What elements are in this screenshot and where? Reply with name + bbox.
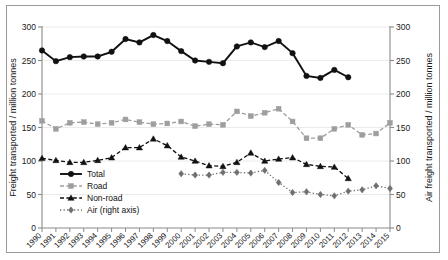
x-axis-tick-label: 2015: [372, 231, 391, 250]
data-point: [234, 159, 240, 164]
series-road: [40, 106, 393, 140]
series-line: [42, 109, 390, 138]
left-axis-tick-label: 200: [22, 89, 36, 99]
data-point: [318, 136, 323, 141]
data-point: [220, 169, 225, 175]
data-point: [109, 120, 114, 125]
left-axis-tick-label: 100: [22, 156, 36, 166]
data-point: [151, 122, 156, 127]
right-axis-tick-label: 300: [396, 22, 410, 32]
data-point: [318, 191, 323, 197]
data-point: [304, 189, 309, 195]
legend-label: Air (right axis): [87, 205, 140, 215]
data-point: [67, 120, 72, 125]
data-point: [39, 48, 44, 53]
data-point: [53, 157, 59, 162]
data-point: [67, 54, 72, 59]
legend-label: Non-road: [87, 193, 123, 203]
legend-marker: [68, 171, 73, 176]
right-axis-title: Air freight transported / million tonnes: [424, 52, 434, 202]
data-point: [374, 183, 379, 189]
data-point: [123, 36, 128, 41]
data-point: [262, 44, 267, 49]
data-point: [318, 75, 323, 80]
data-point: [262, 110, 267, 115]
data-point: [95, 54, 100, 59]
data-point: [137, 40, 142, 45]
data-point: [179, 48, 184, 53]
data-point: [290, 119, 295, 124]
data-point: [360, 187, 365, 193]
data-point: [39, 155, 45, 160]
series-line: [181, 170, 390, 195]
legend-label: Total: [87, 169, 105, 179]
data-point: [248, 170, 253, 176]
data-point: [276, 38, 281, 43]
data-point: [137, 120, 142, 125]
data-point: [360, 132, 365, 137]
left-axis-tick-label: 300: [22, 22, 36, 32]
data-point: [179, 171, 184, 177]
data-point: [276, 106, 281, 111]
data-point: [290, 50, 295, 55]
data-point: [346, 75, 351, 80]
right-axis-tick-label: 250: [396, 56, 410, 66]
data-point: [332, 193, 337, 199]
x-axis: 1990199119921993199419951996199719981999…: [24, 228, 391, 250]
data-point: [179, 119, 184, 124]
data-point: [151, 32, 156, 37]
left-axis-tick-label: 250: [22, 56, 36, 66]
data-point: [332, 126, 337, 131]
left-axis-tick-label: 50: [27, 190, 37, 200]
data-point: [81, 120, 86, 125]
chart-svg: 050100150200250300Freight transported / …: [0, 0, 448, 260]
legend-label: Road: [87, 181, 108, 191]
data-point: [332, 67, 337, 72]
data-point: [388, 185, 393, 191]
legend-item-total[interactable]: Total: [60, 169, 105, 179]
chart-legend: TotalRoadNon-roadAir (right axis): [60, 169, 140, 215]
data-point: [346, 188, 351, 194]
data-point: [95, 122, 100, 127]
data-point: [234, 44, 239, 49]
data-point: [40, 118, 45, 123]
left-axis: 050100150200250300Freight transported / …: [8, 22, 42, 233]
data-point: [192, 58, 197, 63]
right-axis-tick-label: 200: [396, 89, 410, 99]
data-point: [193, 172, 198, 178]
right-axis-tick-label: 150: [396, 123, 410, 133]
data-point: [262, 167, 267, 173]
legend-item-road[interactable]: Road: [60, 181, 108, 191]
data-point: [304, 73, 309, 78]
legend-marker: [69, 184, 74, 189]
data-point: [123, 117, 128, 122]
right-axis-tick-label: 0: [396, 223, 401, 233]
data-point: [220, 60, 225, 65]
data-point: [346, 122, 351, 127]
data-point: [304, 136, 309, 141]
data-point: [53, 58, 58, 63]
data-point: [165, 38, 170, 43]
right-axis: 050100150200250300Air freight transporte…: [390, 22, 434, 233]
data-point: [207, 172, 212, 178]
data-point: [388, 120, 393, 125]
data-point: [193, 124, 198, 129]
legend-item-air-right-axis[interactable]: Air (right axis): [60, 205, 140, 215]
data-point: [276, 179, 281, 185]
data-point: [81, 54, 86, 59]
data-point: [289, 155, 295, 160]
series-line: [42, 35, 348, 78]
data-point: [221, 122, 226, 127]
data-point: [54, 126, 59, 131]
data-point: [248, 150, 254, 155]
right-axis-tick-label: 100: [396, 156, 410, 166]
screenshot-root: 050100150200250300Freight transported / …: [0, 0, 448, 260]
data-point: [248, 40, 253, 45]
data-point: [234, 109, 239, 114]
freight-transport-line-chart: 050100150200250300Freight transported / …: [0, 0, 448, 260]
data-point: [150, 136, 156, 141]
right-axis-tick-label: 50: [396, 190, 406, 200]
data-point: [206, 59, 211, 64]
series-total: [39, 32, 351, 80]
data-point: [248, 114, 253, 119]
